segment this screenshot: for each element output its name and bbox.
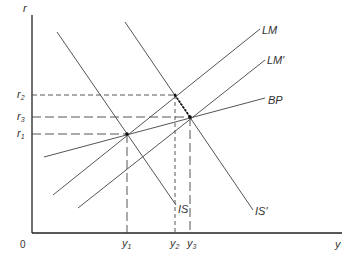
is-curve [57, 32, 176, 205]
equilibrium-point-1 [125, 132, 129, 136]
origin-label: 0 [20, 239, 26, 250]
guide-lines [32, 95, 190, 233]
equilibrium-point-2 [174, 94, 177, 97]
is-lm-bp-diagram: r y 0 LM LM′ BP IS IS′ r2 r3 r1 y1 y2 y3 [0, 0, 360, 258]
bp-curve [44, 98, 265, 157]
r2-label: r2 [17, 88, 25, 101]
lm-prime-label: LM′ [267, 54, 285, 66]
lm-curve [53, 29, 260, 195]
y-axis-label: r [23, 2, 28, 14]
x-axis-label: y [334, 238, 342, 250]
y1-label: y1 [121, 237, 132, 250]
bp-label: BP [268, 94, 283, 106]
is-prime-label: IS′ [255, 205, 268, 217]
y3-label: y3 [186, 237, 197, 250]
r1-label: r1 [17, 127, 25, 140]
y2-label: y2 [169, 237, 180, 250]
equilibrium-point-3 [188, 115, 192, 119]
lm-label: LM [262, 24, 278, 36]
r3-label: r3 [17, 110, 25, 123]
is-label: IS [178, 203, 189, 215]
